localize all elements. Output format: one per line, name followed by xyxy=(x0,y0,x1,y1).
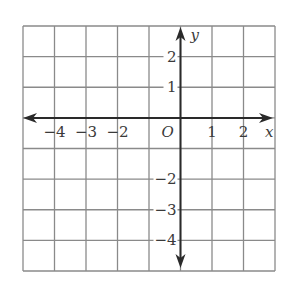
y-tick-label: 1 xyxy=(167,78,177,96)
y-tick-label: −4 xyxy=(154,231,176,249)
x-tick-label: 2 xyxy=(239,123,249,141)
y-tick-label: −3 xyxy=(154,201,176,219)
origin-label: O xyxy=(162,123,174,141)
y-tick-label: −2 xyxy=(154,170,176,188)
coordinate-plane: −4−3−21221−2−3−4 x y O xyxy=(0,0,291,282)
x-axis-label: x xyxy=(265,123,274,141)
x-tick-label: −3 xyxy=(75,123,97,141)
axes xyxy=(23,27,273,268)
y-axis-label: y xyxy=(190,26,200,44)
grid-lines xyxy=(23,26,275,271)
x-tick-label: 1 xyxy=(207,123,217,141)
x-tick-label: −2 xyxy=(106,123,128,141)
x-tick-label: −4 xyxy=(43,123,65,141)
y-tick-label: 2 xyxy=(167,48,177,66)
